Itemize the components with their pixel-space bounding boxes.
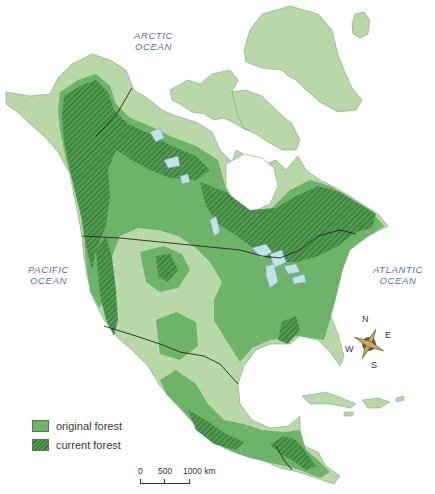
- arctic-ocean-label: ARCTIC OCEAN: [134, 30, 173, 52]
- scale-line: [140, 479, 190, 484]
- scale-mid-tick: [164, 479, 165, 483]
- original-forest-swatch: [32, 420, 49, 432]
- scale-tick-0: 0: [138, 466, 143, 476]
- legend-item-current-forest: current forest: [32, 435, 122, 454]
- ocean-label-line: ARCTIC: [134, 30, 173, 41]
- pacific-ocean-label: PACIFIC OCEAN: [28, 264, 69, 286]
- compass-rose: N E S W: [343, 318, 395, 370]
- iceland-landmass: [352, 12, 370, 38]
- caribbean-islands: [302, 392, 404, 416]
- map-legend: original forest current forest: [32, 416, 122, 454]
- compass-west-label: W: [345, 344, 354, 354]
- gulf-of-mexico: [244, 354, 316, 412]
- compass-south-label: S: [371, 360, 377, 370]
- baffin-island: [232, 90, 300, 150]
- scale-tick-500: 500: [158, 466, 172, 476]
- compass-east-label: E: [385, 330, 391, 340]
- atlantic-ocean-label: ATLANTIC OCEAN: [373, 264, 423, 286]
- legend-label: current forest: [56, 439, 121, 451]
- scale-bar: 0 500 1000 km: [136, 466, 256, 490]
- ocean-label-line: ATLANTIC: [373, 264, 423, 275]
- compass-north-label: N: [362, 314, 369, 324]
- ocean-label-line: PACIFIC: [28, 264, 69, 275]
- ocean-label-line: OCEAN: [134, 41, 173, 52]
- scale-tick-1000: 1000 km: [183, 466, 216, 476]
- legend-item-original-forest: original forest: [32, 416, 122, 435]
- legend-label: original forest: [56, 420, 122, 432]
- ocean-label-line: OCEAN: [28, 275, 69, 286]
- current-forest-swatch: [32, 439, 49, 451]
- ocean-label-line: OCEAN: [373, 275, 423, 286]
